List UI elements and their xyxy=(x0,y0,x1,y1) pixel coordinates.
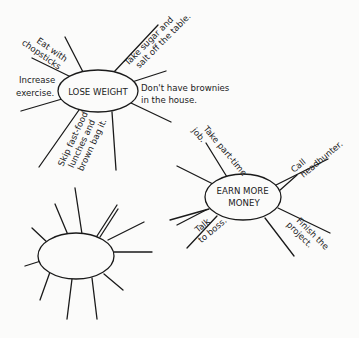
branch-label-take-sugar-salt: Take sugar and salt off the table. xyxy=(122,4,193,75)
mind-map-diagram: LOSE WEIGHT Eat with chopsticks Take sug… xyxy=(0,0,359,338)
central-node-blank xyxy=(38,233,114,279)
branch-label-dont-have-brownies: Don't have brownies in the house. xyxy=(141,83,232,105)
cluster-lose-weight: LOSE WEIGHT Eat with chopsticks Take sug… xyxy=(16,4,232,176)
branch-label-eat-with-chopsticks: Eat with chopsticks xyxy=(20,29,71,73)
central-label-lose-weight: LOSE WEIGHT xyxy=(68,87,128,97)
mind-map-canvas: LOSE WEIGHT Eat with chopsticks Take sug… xyxy=(0,0,359,338)
branch-label-increase-exercise: Increase exercise. xyxy=(16,75,58,98)
cluster-earn-more-money: EARN MORE MONEY Take part-time job. Call… xyxy=(170,118,345,260)
branch-label-skip-fast-food: Skip fast-food lunches and brown bag it. xyxy=(56,107,109,176)
central-node-earn-more-money xyxy=(205,174,281,220)
cluster-blank xyxy=(25,188,152,319)
